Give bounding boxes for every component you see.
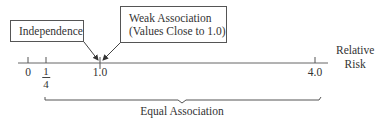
fraction-numerator: 1 xyxy=(42,65,50,78)
tick-label-1: 1.0 xyxy=(93,66,107,78)
arrow-weak-association xyxy=(103,43,120,60)
weak-association-sublabel: (Values Close to 1.0) xyxy=(129,25,226,38)
weak-association-box: Weak Association (Values Close to 1.0) xyxy=(120,6,227,43)
axis-title-line2: Risk xyxy=(336,57,374,71)
independence-box: Independence xyxy=(10,20,84,42)
tick-label-4: 4.0 xyxy=(308,66,322,78)
axis-title-line1: Relative xyxy=(336,43,374,57)
weak-association-label: Weak Association xyxy=(129,12,226,25)
relative-risk-diagram: Independence Weak Association (Values Cl… xyxy=(0,0,380,123)
fraction-denominator: 4 xyxy=(42,78,50,90)
equal-association-label: Equal Association xyxy=(140,105,223,117)
arrow-independence xyxy=(84,42,98,60)
tick-label-0: 0 xyxy=(25,66,31,78)
tick-label-quarter: 1 4 xyxy=(42,65,50,90)
independence-label: Independence xyxy=(19,25,83,37)
brace xyxy=(45,97,321,103)
axis-title: Relative Risk xyxy=(336,43,374,71)
